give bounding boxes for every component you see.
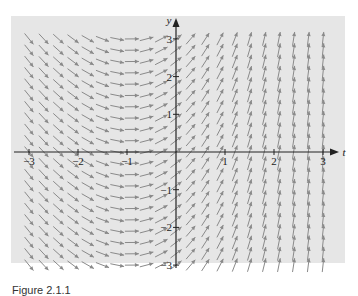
svg-text:2: 2	[271, 155, 277, 167]
svg-text:3: 3	[320, 155, 326, 167]
svg-text:−2: −2	[160, 221, 172, 233]
svg-text:1: 1	[222, 155, 228, 167]
svg-text:−3: −3	[23, 155, 35, 167]
svg-text:y: y	[166, 14, 172, 26]
svg-text:2: 2	[167, 71, 173, 83]
svg-text:−1: −1	[160, 184, 172, 196]
svg-text:−1: −1	[121, 155, 133, 167]
svg-text:3: 3	[167, 33, 173, 45]
svg-text:1: 1	[167, 108, 173, 120]
figure-caption: Figure 2.1.1	[12, 284, 71, 296]
svg-text:−3: −3	[160, 259, 172, 271]
svg-text:−2: −2	[72, 155, 84, 167]
svg-text:t: t	[342, 146, 346, 158]
